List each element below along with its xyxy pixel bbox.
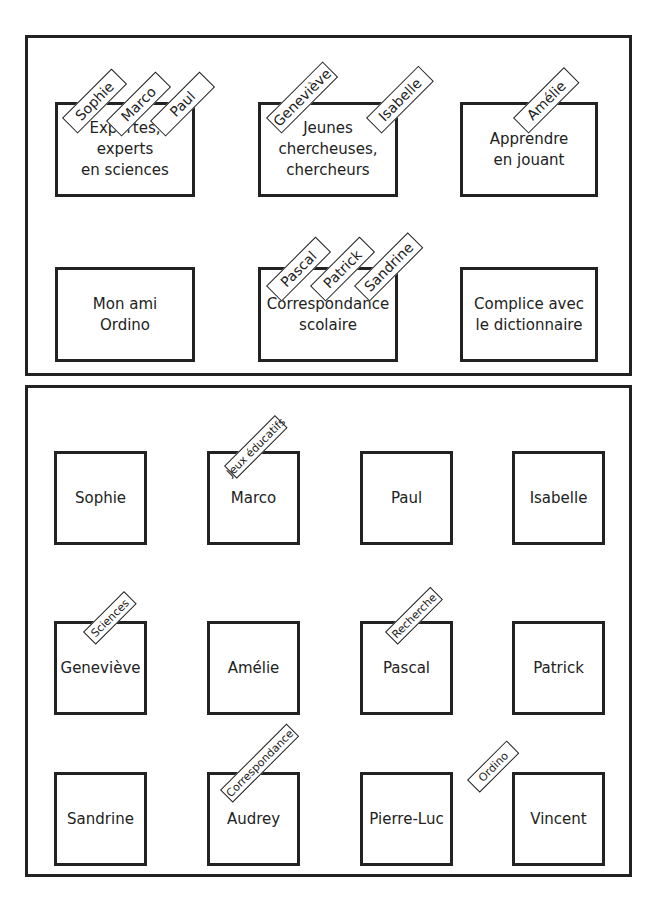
person-box: Pierre-Luc xyxy=(360,772,453,866)
person-box-label: Audrey xyxy=(227,809,280,830)
person-box-label: Vincent xyxy=(530,809,586,830)
person-box-label: Sophie xyxy=(75,488,126,509)
group-box-label: Apprendre en jouant xyxy=(490,129,568,171)
group-box: Complice avec le dictionnaire xyxy=(460,267,598,362)
group-box: Mon ami Ordino xyxy=(55,267,195,362)
person-box-label: Marco xyxy=(231,488,276,509)
person-box-label: Pierre-Luc xyxy=(369,809,443,830)
group-box-label: Jeunes chercheuses, chercheurs xyxy=(279,118,378,181)
person-box-label: Isabelle xyxy=(530,488,588,509)
person-box: Marco xyxy=(207,451,300,545)
person-box-label: Amélie xyxy=(228,658,280,679)
group-box-label: Mon ami Ordino xyxy=(93,294,157,336)
person-box: Isabelle xyxy=(512,451,605,545)
person-box-label: Geneviève xyxy=(61,658,141,679)
person-box-label: Paul xyxy=(391,488,422,509)
group-box-label: Complice avec le dictionnaire xyxy=(474,294,584,336)
person-box: Paul xyxy=(360,451,453,545)
person-box: Patrick xyxy=(512,621,605,715)
person-box: Vincent xyxy=(512,772,605,866)
person-box: Sophie xyxy=(54,451,147,545)
person-box: Amélie xyxy=(207,621,300,715)
person-box: Sandrine xyxy=(54,772,147,866)
person-box-label: Sandrine xyxy=(67,809,134,830)
person-box-label: Patrick xyxy=(533,658,584,679)
person-box: Audrey xyxy=(207,772,300,866)
person-box-label: Pascal xyxy=(383,658,430,679)
